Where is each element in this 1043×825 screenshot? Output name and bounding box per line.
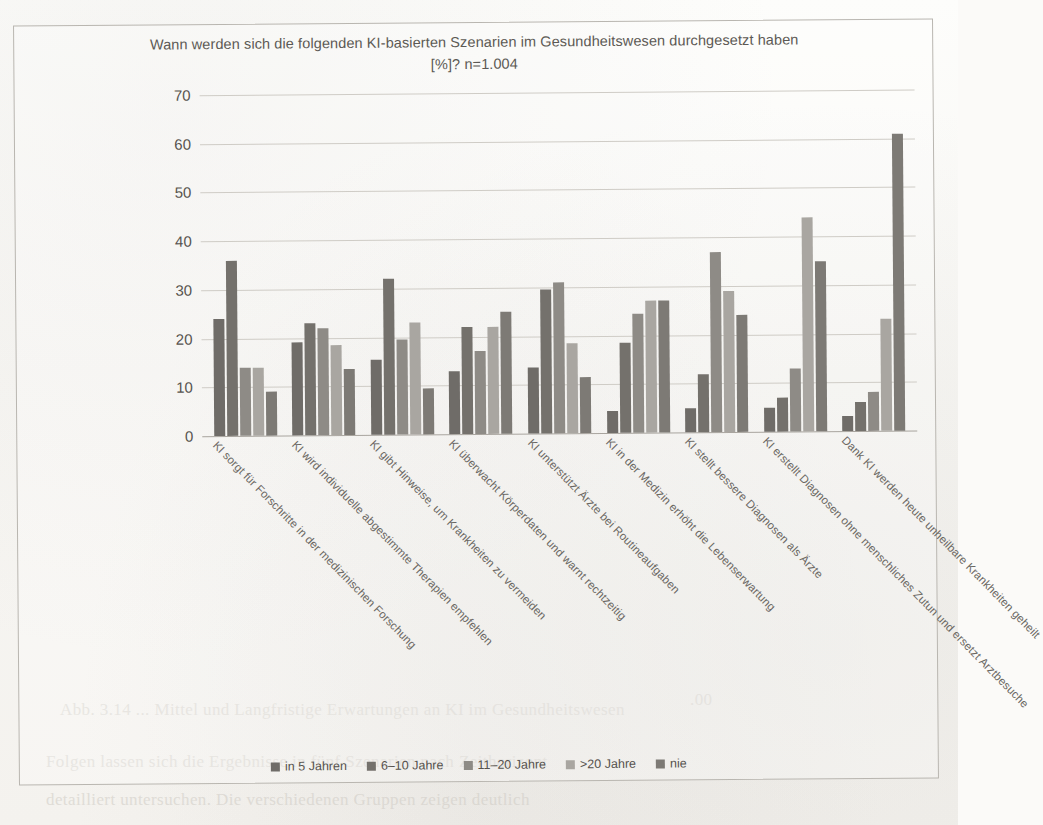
bar[interactable] (764, 407, 775, 431)
y-axis-tick-60: 60 (174, 135, 191, 152)
bar[interactable] (736, 315, 748, 432)
bar-group (518, 92, 599, 434)
x-axis-label: KI erstellt Diagnosen ohne menschliches … (761, 435, 1031, 710)
y-axis-tick-0: 0 (185, 428, 193, 445)
bar[interactable] (213, 319, 225, 436)
bar[interactable] (855, 402, 866, 431)
bar[interactable] (318, 328, 330, 435)
bar[interactable] (619, 343, 631, 433)
bar[interactable] (449, 371, 460, 434)
legend-item[interactable]: 6–10 Jahre (367, 758, 444, 773)
legend-item[interactable]: >20 Jahre (566, 757, 636, 772)
legend-item[interactable]: nie (656, 756, 687, 770)
legend-label: 6–10 Jahre (381, 758, 444, 772)
bar-group (361, 93, 442, 435)
chart-title-line-2: [%]? n=1.004 (431, 56, 518, 73)
y-axis-tick-30: 30 (175, 282, 192, 299)
legend-swatch-icon (367, 761, 376, 770)
bar[interactable] (331, 345, 343, 435)
legend-swatch-icon (463, 761, 472, 770)
bar[interactable] (383, 279, 395, 435)
bar-group (596, 91, 677, 433)
legend-label: nie (670, 756, 687, 770)
y-axis-tick-70: 70 (174, 87, 191, 104)
legend-swatch-icon (656, 759, 665, 768)
bar[interactable] (892, 133, 905, 430)
bar[interactable] (881, 319, 893, 431)
chart-title: Wann werden sich die folgenden KI-basier… (104, 28, 844, 79)
bar-group (204, 95, 285, 437)
x-axis-label: KI stellt bessere Diagnosen als Ärzte (682, 435, 825, 580)
bar[interactable] (528, 368, 540, 434)
x-axis-label: KI gibt Hinweise, um Krankheiten zu verm… (368, 438, 549, 622)
bar[interactable] (344, 369, 356, 435)
bar[interactable] (815, 261, 827, 432)
legend-label: 11–20 Jahre (477, 757, 546, 772)
bar-group (832, 90, 913, 432)
bar-group (282, 94, 363, 436)
bar[interactable] (777, 397, 788, 431)
bar[interactable] (240, 368, 252, 436)
bar[interactable] (409, 322, 421, 434)
bar[interactable] (540, 290, 552, 434)
bar-group (675, 91, 756, 433)
y-axis-tick-10: 10 (176, 379, 193, 396)
bar[interactable] (801, 217, 814, 431)
bar[interactable] (698, 374, 709, 433)
bar[interactable] (305, 323, 317, 435)
bar[interactable] (475, 351, 487, 434)
bar[interactable] (266, 392, 277, 436)
legend-label: in 5 Jahren (285, 759, 347, 773)
x-axis-label: KI überwacht Körperdaten und warnt recht… (447, 437, 629, 622)
bar[interactable] (567, 343, 579, 433)
plot-area: 706050403020100 (200, 90, 918, 437)
bar-series-container (200, 90, 918, 437)
bar[interactable] (423, 388, 434, 434)
bar-group (754, 90, 835, 432)
bar[interactable] (396, 340, 408, 435)
bar[interactable] (253, 367, 265, 435)
bar[interactable] (789, 368, 800, 431)
y-axis-tick-50: 50 (175, 184, 192, 201)
legend-label: >20 Jahre (580, 757, 636, 771)
y-axis-tick-20: 20 (176, 330, 193, 347)
bar[interactable] (632, 313, 644, 432)
bar[interactable] (658, 301, 670, 433)
bar[interactable] (371, 359, 383, 435)
legend-swatch-icon (566, 760, 575, 769)
x-axis-label: KI unterstützt Ärzte bei Routineaufgaben (525, 437, 681, 596)
bar[interactable] (868, 392, 879, 431)
legend-item[interactable]: 11–20 Jahre (463, 757, 546, 772)
bar-group (439, 93, 520, 435)
bar[interactable] (226, 261, 238, 436)
bar[interactable] (710, 252, 722, 432)
bar[interactable] (645, 301, 657, 433)
bar[interactable] (501, 312, 513, 434)
y-axis-tick-40: 40 (175, 233, 192, 250)
chart-legend: in 5 Jahren6–10 Jahre11–20 Jahre>20 Jahr… (20, 754, 938, 775)
x-axis-label: KI in der Medizin erhöht die Lebenserwar… (604, 436, 778, 613)
bar[interactable] (723, 291, 735, 432)
bar[interactable] (580, 377, 591, 433)
chart-container: Wann werden sich die folgenden KI-basier… (13, 18, 939, 785)
chart-title-line-1: Wann werden sich die folgenden KI-basier… (150, 31, 799, 52)
legend-swatch-icon (271, 762, 280, 771)
bar[interactable] (462, 327, 474, 434)
bar[interactable] (685, 408, 696, 432)
bar[interactable] (842, 416, 853, 431)
bar[interactable] (553, 282, 565, 433)
legend-item[interactable]: in 5 Jahren (271, 759, 347, 774)
bar[interactable] (607, 411, 618, 433)
bar[interactable] (292, 343, 304, 436)
bar[interactable] (488, 327, 500, 434)
